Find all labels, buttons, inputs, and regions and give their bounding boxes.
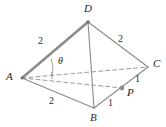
edge-AB: [22, 78, 94, 108]
point-dot-P: [120, 86, 125, 91]
edge-length-label-DC: 2: [118, 34, 123, 44]
edge-length-label-AB: 2: [49, 96, 54, 106]
edge-AP-dashed: [22, 78, 122, 88]
figure-canvas: [0, 0, 166, 127]
vertex-label-C: C: [153, 58, 160, 69]
vertex-label-A: A: [6, 71, 13, 82]
vertex-dot-D: [86, 20, 90, 24]
edge-length-label-PC: 1: [135, 74, 140, 84]
edge-length-label-AD: 2: [38, 36, 43, 46]
vertex-dot-A: [21, 77, 24, 80]
tetrahedron-figure: A B C D P 2 2 2 1 1 θ: [0, 0, 166, 127]
edge-length-label-BP: 1: [108, 98, 113, 108]
edge-DB: [88, 22, 94, 108]
angle-label-theta: θ: [58, 56, 63, 66]
edge-AD-bold: [22, 22, 88, 78]
vertex-label-D: D: [84, 3, 92, 14]
edge-DC: [88, 22, 148, 67]
edge-AC-dashed: [22, 67, 148, 78]
vertex-label-B: B: [90, 112, 97, 123]
point-label-P: P: [127, 87, 134, 98]
